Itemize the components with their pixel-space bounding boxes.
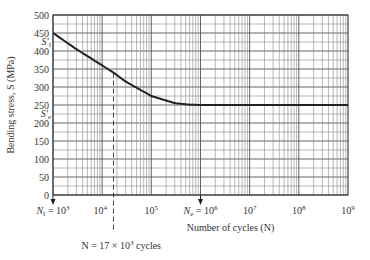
x-tick-label: 108 — [292, 204, 306, 216]
x-tick-label: 107 — [243, 204, 257, 216]
y-tick-label: 50 — [39, 172, 49, 183]
x-tick-label: 104 — [93, 204, 107, 216]
x-tick-label: 109 — [341, 204, 355, 216]
y-tick-label: 200 — [34, 118, 49, 129]
y-tick-label: 500 — [34, 10, 49, 21]
y-tick-label: 150 — [34, 136, 49, 147]
y-tick-label: 400 — [34, 46, 49, 57]
y-tick-label: 300 — [34, 82, 49, 93]
n-17e3-label: N = 17 × 103 cycles — [81, 239, 161, 251]
x-axis-label: Number of cycles (N) — [187, 222, 274, 234]
x-tick-label-nf: Nf = 103 — [35, 204, 70, 218]
y-tick-label: 350 — [34, 64, 49, 75]
y-tick-label: 0 — [44, 190, 49, 201]
y-axis-label: Bending stress, S (MPa) — [5, 56, 17, 153]
x-tick-label-ne: Ne = 106 — [183, 204, 218, 218]
y-tick-label: 100 — [34, 154, 49, 165]
sn-chart: 050100150200250300350400450500Nf = 10310… — [0, 0, 370, 260]
x-tick-label: 105 — [145, 204, 159, 216]
